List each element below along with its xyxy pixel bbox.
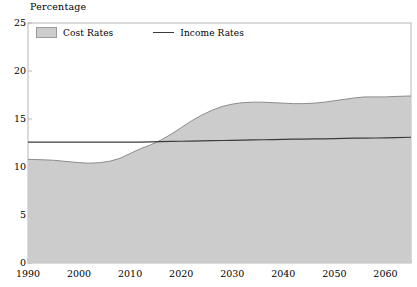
x-axis-tick-label: 2020 [169,269,193,279]
legend-item-income-rates: Income Rates [153,28,244,38]
x-axis-tick-label: 2000 [67,269,91,279]
chart-container: Percentage 0510152025 199020002010202020… [0,0,417,287]
x-axis-tick-label: 2030 [220,269,244,279]
x-axis-tick-label: 1990 [16,269,40,279]
cost-rates-area [28,96,411,263]
legend-swatch-icon [36,27,57,38]
x-axis-tick-label: 2060 [373,269,397,279]
legend-line-icon [153,32,174,33]
legend-label-cost-rates: Cost Rates [63,28,113,38]
chart-legend: Cost Rates Income Rates [36,27,244,38]
x-axis-tick-label: 2040 [271,269,295,279]
plot-area [0,0,417,287]
x-axis-tick-label: 2010 [118,269,142,279]
x-axis-tick-label: 2050 [322,269,346,279]
legend-label-income-rates: Income Rates [180,28,244,38]
legend-item-cost-rates: Cost Rates [36,27,113,38]
